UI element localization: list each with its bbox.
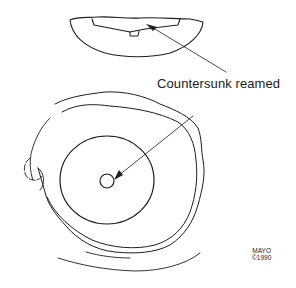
arrowhead-top — [146, 24, 157, 31]
callout-leader-bottom — [118, 116, 193, 176]
line-drawing — [0, 0, 296, 288]
copyright-credit: MAYO ©1990 — [252, 247, 271, 261]
illustration-canvas: Countersunk reamed MAYO ©1990 — [0, 0, 296, 288]
callout-leader-top — [150, 26, 226, 72]
arrowhead-bottom — [114, 170, 123, 180]
credit-line-2: ©1990 — [252, 254, 271, 261]
outer-rim-inner-edge — [47, 105, 197, 248]
central-hole — [100, 174, 114, 188]
reamed-area-contour — [60, 136, 154, 224]
countersunk-reamed-label: Countersunk reamed — [157, 76, 280, 91]
outer-rim — [38, 92, 204, 253]
face-view — [24, 92, 204, 271]
lower-arc-1 — [58, 253, 200, 271]
credit-line-1: MAYO — [252, 247, 271, 254]
cross-section-view — [70, 17, 226, 72]
countersunk-recess — [92, 19, 180, 32]
cross-section-outline — [70, 17, 203, 57]
rim-fragment-left — [30, 118, 50, 180]
